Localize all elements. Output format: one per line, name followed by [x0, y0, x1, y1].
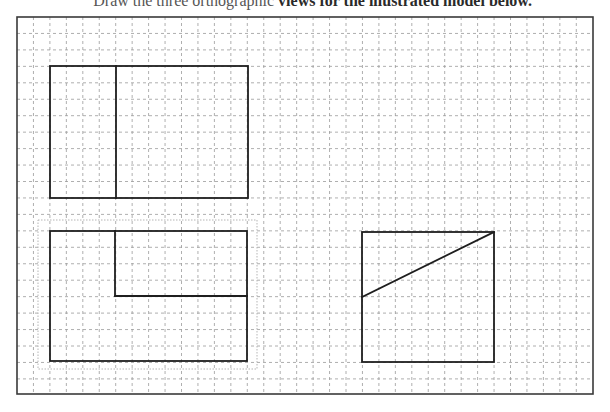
sheet-frame [17, 17, 593, 394]
view-highlight-box [38, 220, 257, 369]
bottom-left-view [38, 220, 257, 369]
drawing-sheet [0, 0, 610, 412]
orthographic-views [38, 66, 494, 369]
dashed-grid [17, 17, 593, 394]
